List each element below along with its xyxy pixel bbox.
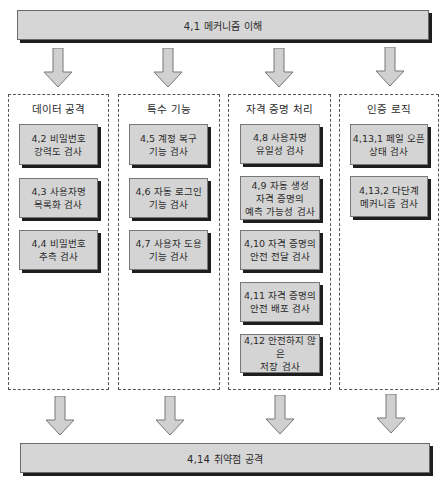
bottom-banner-label: 4,14 취약점 공격	[187, 451, 263, 466]
box-auto-login: 4,6 자동 로그인 기능 검사	[129, 178, 208, 218]
column-title: 데이터 공격	[9, 101, 108, 116]
top-banner-label: 4,1 메커니즘 이해	[184, 18, 262, 33]
box-credential-secure-transmission: 4,10 자격 증명의 안전 전달 검사	[240, 230, 320, 270]
down-arrow-icon	[152, 48, 184, 88]
box-credential-predictability: 4,9 자동 생성 자격 증명의 예측 가능성 검사	[240, 176, 320, 220]
down-arrow-icon	[264, 395, 296, 435]
box-credential-secure-distribution: 4,11 자격 증명의 안전 배포 검사	[240, 282, 320, 322]
box-account-recovery: 4,5 계정 복구 기능 검사	[129, 124, 208, 165]
column-title: 인증 로직	[340, 101, 438, 116]
box-password-guessing: 4,4 비밀번호 추측 검사	[19, 230, 98, 270]
down-arrow-icon	[42, 48, 74, 88]
box-username-enumeration: 4,3 사용자명 목록화 검사	[19, 178, 98, 218]
down-arrow-icon	[154, 396, 186, 436]
box-password-strength: 4,2 비밀번호 강력도 검사	[19, 124, 98, 165]
box-multistage-mechanism: 4,13,2 다단계 메커니즘 검사	[350, 176, 428, 217]
column-title: 자격 증명 처리	[229, 101, 330, 116]
down-arrow-icon	[263, 48, 295, 88]
box-user-impersonation: 4,7 사용자 도용 기능 검사	[129, 230, 208, 270]
box-insecure-storage: 4,12 안전하지 않은 저장 검사	[240, 334, 320, 373]
down-arrow-icon	[375, 394, 407, 434]
top-banner-mechanism-understanding: 4,1 메커니즘 이해	[17, 10, 429, 40]
down-arrow-icon	[374, 47, 406, 87]
down-arrow-icon	[44, 396, 76, 436]
box-fail-open: 4,13,1 페일 오픈 상태 검사	[350, 124, 428, 165]
column-title: 특수 기능	[119, 101, 219, 116]
box-username-uniqueness: 4,8 사용자명 유일성 검사	[240, 124, 320, 164]
bottom-banner-vulnerability-exploitation: 4,14 취약점 공격	[20, 443, 430, 473]
